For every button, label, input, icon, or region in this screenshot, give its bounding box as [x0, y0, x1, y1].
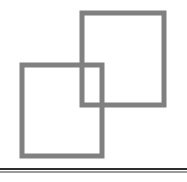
screenshot-root: Two outlined squares in gray that overla…: [0, 0, 187, 182]
lower-left-square: [22, 65, 102, 156]
logo-area: Two outlined squares in gray that overla…: [0, 0, 187, 168]
two-overlapping-squares-icon: [0, 0, 187, 168]
horizontal-rule-light: [0, 171, 187, 173]
horizontal-rule-dark: [0, 168, 187, 170]
upper-right-square: [82, 13, 164, 105]
